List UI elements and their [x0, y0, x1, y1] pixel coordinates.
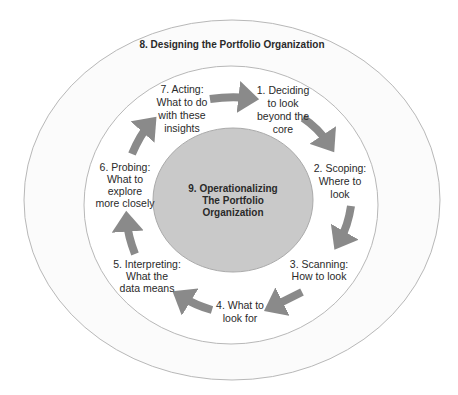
core-label-line: 9. Operationalizing [188, 183, 277, 194]
step-label-line: 4. What to [216, 299, 264, 311]
step-label-line: 5. Interpreting: [113, 258, 181, 270]
step-label-line: with these [157, 109, 205, 121]
step-label-line: 3. Scanning: [290, 258, 348, 270]
step-label-line: What to do [157, 96, 208, 108]
step-3-scanning: 3. Scanning: How to look [290, 258, 348, 282]
step-label-line: core [273, 123, 294, 135]
step-label-line: data means [120, 282, 175, 294]
portfolio-cycle-diagram: 8. Designing the Portfolio Organization … [0, 0, 458, 395]
step-label-line: 6. Probing: [100, 161, 151, 173]
step-label-line: more closely [96, 197, 156, 209]
core-label-line: Organization [202, 207, 263, 218]
arrow-7-to-1-icon [210, 97, 248, 99]
step-label-line: to look [268, 97, 300, 109]
step-label-line: look [330, 188, 350, 200]
step-label-line: beyond the [257, 110, 309, 122]
step-label-line: 2. Scoping: [314, 162, 367, 174]
step-label-line: look for [223, 312, 258, 324]
step-label-line: What the [126, 270, 168, 282]
step-label-line: What to [107, 173, 143, 185]
step-label-line: 1. Deciding [257, 84, 310, 96]
step-label-line: Where to [319, 175, 362, 187]
outer-ring-label: 8. Designing the Portfolio Organization [139, 39, 324, 50]
step-4-what-to-look-for: 4. What to look for [216, 299, 264, 324]
step-label-line: insights [164, 122, 200, 134]
step-label-line: How to look [292, 270, 348, 282]
step-label-line: explore [108, 185, 143, 197]
core-label-line: The Portfolio [202, 195, 264, 206]
step-label-line: 7. Acting: [160, 83, 203, 95]
